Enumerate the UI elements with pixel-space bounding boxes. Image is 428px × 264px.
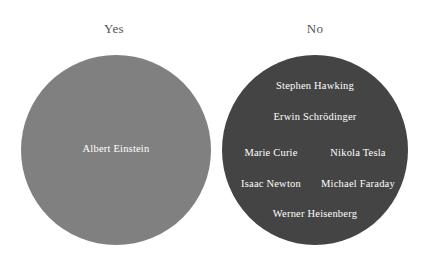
member-label-isaac-newton: Isaac Newton: [228, 178, 314, 189]
no-group-circle: Stephen Hawking Erwin Schrödinger Marie …: [222, 55, 408, 245]
member-label-werner-heisenberg: Werner Heisenberg: [222, 208, 408, 219]
member-label-marie-curie: Marie Curie: [228, 147, 314, 158]
member-label-nikola-tesla: Nikola Tesla: [312, 147, 404, 158]
member-label-albert-einstein: Albert Einstein: [21, 143, 211, 154]
member-label-erwin-schrodinger: Erwin Schrödinger: [222, 111, 408, 122]
venn-comparison-chart: Yes No Albert Einstein Stephen Hawking E…: [0, 0, 428, 264]
member-label-michael-faraday: Michael Faraday: [312, 178, 404, 189]
member-label-stephen-hawking: Stephen Hawking: [222, 80, 408, 91]
column-header-yes: Yes: [54, 21, 174, 37]
yes-group-circle: Albert Einstein: [21, 55, 211, 245]
column-header-no: No: [255, 21, 375, 37]
